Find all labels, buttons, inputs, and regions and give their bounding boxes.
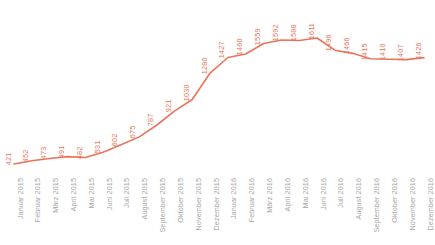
x-axis-label: April 2015 — [70, 178, 77, 211]
x-axis-label: Februar 2015 — [34, 178, 41, 222]
x-axis-label: Oktober 2016 — [391, 178, 398, 223]
series-line-svg — [0, 0, 433, 185]
x-axis-label: Juni 2016 — [320, 178, 327, 210]
x-axis-label-group: Januar 2015Februar 2015März 2015April 20… — [0, 178, 433, 245]
x-axis-label: Mai 2015 — [88, 178, 95, 208]
x-axis-label: Januar 2016 — [230, 178, 237, 219]
x-axis-label: November 2015 — [195, 178, 202, 230]
x-axis-label: März 2015 — [52, 178, 59, 213]
x-axis-label: April 2016 — [284, 178, 291, 211]
x-axis-label: Mai 2016 — [302, 178, 309, 208]
x-axis-label: September 2016 — [373, 178, 380, 233]
x-axis-label: Dezember 2016 — [427, 178, 434, 230]
x-axis-label: Januar 2015 — [17, 178, 24, 219]
x-axis-label: März 2016 — [266, 178, 273, 213]
x-axis-label: August 2016 — [355, 178, 362, 219]
x-axis-label: Februar 2016 — [248, 178, 255, 222]
x-axis-label: Juli 2016 — [337, 178, 344, 208]
x-axis-label: September 2015 — [159, 178, 166, 233]
x-axis-label: Juni 2015 — [106, 178, 113, 210]
x-axis-label: August 2015 — [141, 178, 148, 219]
x-axis-label: Dezember 2015 — [213, 178, 220, 230]
series-line — [14, 38, 424, 164]
x-axis-label: Oktober 2015 — [177, 178, 184, 223]
x-axis-label: Juli 2015 — [123, 178, 130, 208]
x-axis-label: November 2016 — [409, 178, 416, 230]
plot-area — [0, 0, 433, 185]
